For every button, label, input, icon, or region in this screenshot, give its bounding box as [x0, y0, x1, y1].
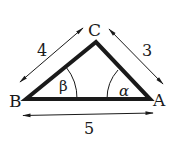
side-length-ca: 3	[142, 41, 152, 60]
angle-arc-alpha	[107, 70, 118, 99]
side-length-bc: 4	[37, 41, 47, 60]
dimension-arrow-ca	[109, 29, 163, 84]
vertex-label-b: B	[9, 91, 22, 111]
angle-label-alpha: α	[119, 82, 129, 100]
triangle-diagram: C B A 4 3 5 β α	[0, 0, 175, 155]
side-length-ba: 5	[84, 119, 94, 138]
dimension-arrow-bc	[20, 28, 83, 82]
dimension-arrow-ba	[23, 113, 153, 116]
vertex-label-c: C	[88, 20, 101, 40]
angle-label-beta: β	[59, 77, 68, 95]
vertex-label-a: A	[152, 90, 166, 110]
